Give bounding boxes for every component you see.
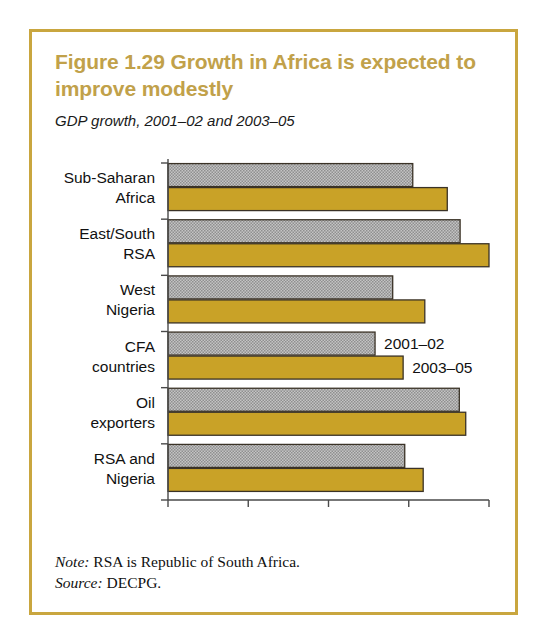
bar [168,300,425,323]
category-label: Oil [136,394,155,411]
category-label: Africa [115,189,155,206]
figure-subtitle: GDP growth, 2001–02 and 2003–05 [55,111,485,130]
bar [168,468,423,491]
source-line: Source: DECPG. [55,572,485,593]
source-label: Source: [55,574,103,591]
category-label: Nigeria [106,470,155,487]
bar [168,276,393,299]
source-text: DECPG. [103,574,162,591]
category-label: Nigeria [106,301,155,318]
figure-footnote: Note: RSA is Republic of South Africa. S… [55,551,485,593]
note-line: Note: RSA is Republic of South Africa. [55,551,485,572]
bar [168,444,405,467]
category-label: countries [92,358,155,375]
bar [168,388,459,411]
bar [168,356,403,379]
bar [168,164,413,187]
category-label: exporters [90,414,155,431]
category-label: RSA [123,245,156,262]
category-label: West [120,281,156,298]
bar [168,188,447,211]
note-text: RSA is Republic of South Africa. [89,553,300,570]
bar [168,332,375,355]
figure-title: Figure 1.29 Growth in Africa is expected… [55,48,485,102]
bar [168,412,466,435]
bar [168,244,489,267]
category-labels: Sub-SaharanAfricaEast/SouthRSAWestNigeri… [64,169,156,487]
chart-canvas: Sub-SaharanAfricaEast/SouthRSAWestNigeri… [45,155,505,510]
note-label: Note: [55,553,89,570]
category-label: RSA and [94,450,155,467]
category-label: CFA [125,338,156,355]
category-label: Sub-Saharan [64,169,155,186]
legend-label: 2001–02 [384,335,444,352]
bar-chart: Sub-SaharanAfricaEast/SouthRSAWestNigeri… [45,155,505,510]
bar [168,220,460,243]
bars-layer [168,164,489,492]
category-label: East/South [79,225,155,242]
legend-label: 2003–05 [412,359,472,376]
